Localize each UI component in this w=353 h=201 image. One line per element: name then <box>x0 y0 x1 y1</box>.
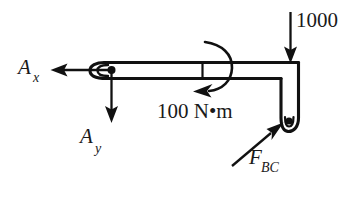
label-ax: A x <box>16 55 40 85</box>
force-fbc-arrowhead <box>267 123 284 141</box>
label-applied-moment: 100 N•m <box>157 99 233 123</box>
moment-100-curve <box>205 42 232 91</box>
pin-joint-c <box>285 117 292 124</box>
label-ay-subscript: y <box>93 141 102 156</box>
beam-AB <box>90 63 299 79</box>
label-applied-load: 1000 <box>296 8 338 32</box>
label-fbc: F BC <box>248 145 280 175</box>
diagram-canvas: A x A y 1000 100 N•m F BC <box>0 0 353 201</box>
label-ay: A y <box>78 124 102 156</box>
free-body-diagram: A x A y 1000 100 N•m F BC <box>0 0 353 201</box>
label-fbc-subscript: BC <box>261 160 280 175</box>
label-fbc-symbol: F <box>248 145 262 169</box>
label-ax-subscript: x <box>32 70 40 85</box>
moment-100-arrow <box>193 42 232 98</box>
label-ay-symbol: A <box>78 124 93 148</box>
label-ax-symbol: A <box>16 55 31 79</box>
